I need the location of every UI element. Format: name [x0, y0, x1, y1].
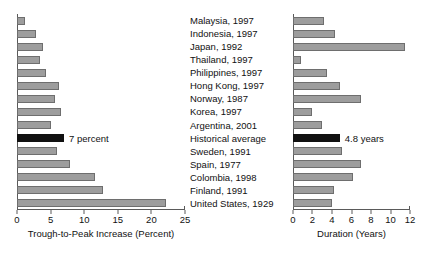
- category-label-1: Indonesia, 1997: [190, 29, 285, 39]
- bar-row: [17, 29, 185, 39]
- bar-row: [17, 159, 185, 169]
- bar-row: [293, 107, 410, 117]
- bar-left-2: [17, 43, 43, 51]
- x-tick-label: 2: [310, 214, 315, 225]
- bar-row: [17, 81, 185, 91]
- x-tick-label: 4: [329, 214, 334, 225]
- bar-row: [293, 146, 410, 156]
- category-label-7: Korea, 1997: [190, 107, 285, 117]
- x-tick-label: 15: [113, 214, 124, 225]
- category-label-14: United States, 1929: [190, 198, 285, 208]
- x-tick-label: 6: [349, 214, 354, 225]
- bar-left-5: [17, 82, 59, 90]
- panel-trough-to-peak: 7 percent 0510152025 Trough-to-Peak Incr…: [0, 0, 190, 253]
- bar-row: [17, 94, 185, 104]
- category-label-12: Colombia, 1998: [190, 172, 285, 182]
- x-tick-label: 8: [368, 214, 373, 225]
- category-label-0: Malaysia, 1997: [190, 16, 285, 26]
- bar-annotation-left: 7 percent: [64, 133, 109, 144]
- bar-row: 7 percent: [17, 133, 185, 143]
- bar-left-11: [17, 160, 70, 168]
- bar-row: [293, 159, 410, 169]
- bar-row: 4.8 years: [293, 133, 410, 143]
- x-axis-title-left: Trough-to-Peak Increase (Percent): [17, 228, 185, 239]
- bar-right-3: [293, 56, 301, 64]
- x-tick-label: 0: [14, 214, 19, 225]
- bar-row: [293, 29, 410, 39]
- bar-row: [293, 81, 410, 91]
- bar-left-6: [17, 95, 55, 103]
- bar-row: [293, 55, 410, 65]
- bar-group-right: 4.8 years: [293, 14, 410, 210]
- bar-right-8: [293, 121, 322, 129]
- bar-right-12: [293, 173, 353, 181]
- x-tick-label: 20: [146, 214, 157, 225]
- bar-row: [293, 94, 410, 104]
- bar-right-10: [293, 147, 342, 155]
- bar-row: [17, 55, 185, 65]
- category-label-13: Finland, 1991: [190, 185, 285, 195]
- bar-left-8: [17, 121, 51, 129]
- bar-left-12: [17, 173, 95, 181]
- bar-left-14: [17, 199, 166, 207]
- bar-row: [293, 16, 410, 26]
- bar-row: [293, 120, 410, 130]
- category-label-9: Historical average: [190, 133, 285, 143]
- bar-right-1: [293, 30, 335, 38]
- bar-right-14: [293, 199, 332, 207]
- category-label-10: Sweden, 1991: [190, 146, 285, 156]
- bar-right-7: [293, 108, 312, 116]
- bar-row: [17, 68, 185, 78]
- x-axis-title-right: Duration (Years): [293, 228, 410, 239]
- bar-left-7: [17, 108, 61, 116]
- bar-row: [293, 42, 410, 52]
- bar-left-13: [17, 186, 103, 194]
- bar-left-0: [17, 17, 25, 25]
- bar-group-left: 7 percent: [17, 14, 185, 210]
- bar-row: [293, 172, 410, 182]
- x-tick-label: 10: [79, 214, 90, 225]
- category-label-4: Philippines, 1997: [190, 68, 285, 78]
- bar-row: [17, 146, 185, 156]
- bar-right-0: [293, 17, 324, 25]
- bar-highlight-left: [17, 134, 64, 142]
- bar-right-5: [293, 82, 340, 90]
- x-tick-label: 5: [48, 214, 53, 225]
- bar-left-10: [17, 147, 57, 155]
- bar-right-11: [293, 160, 361, 168]
- bar-row: [293, 198, 410, 208]
- bar-row: [17, 16, 185, 26]
- figure-two-panel-bar-chart: 7 percent 0510152025 Trough-to-Peak Incr…: [0, 0, 426, 253]
- bar-row: [17, 198, 185, 208]
- bar-left-1: [17, 30, 36, 38]
- panel-duration: 4.8 years 024681012 Duration (Years): [285, 0, 426, 253]
- x-tick-label: 25: [180, 214, 191, 225]
- bar-right-13: [293, 186, 334, 194]
- category-label-6: Norway, 1987: [190, 94, 285, 104]
- bar-left-3: [17, 56, 40, 64]
- bar-right-2: [293, 43, 405, 51]
- panel-category-labels: Malaysia, 1997Indonesia, 1997Japan, 1992…: [190, 0, 285, 253]
- plot-area-right: 4.8 years 024681012 Duration (Years): [293, 14, 410, 210]
- category-label-list: Malaysia, 1997Indonesia, 1997Japan, 1992…: [190, 14, 285, 210]
- x-tick-label: 12: [405, 214, 416, 225]
- bar-row: [293, 68, 410, 78]
- category-label-3: Thailand, 1997: [190, 55, 285, 65]
- bar-annotation-right: 4.8 years: [340, 133, 384, 144]
- bar-row: [17, 185, 185, 195]
- bar-right-6: [293, 95, 361, 103]
- bar-row: [17, 107, 185, 117]
- category-label-2: Japan, 1992: [190, 42, 285, 52]
- category-label-8: Argentina, 2001: [190, 120, 285, 130]
- x-tick-label: 0: [290, 214, 295, 225]
- category-label-5: Hong Kong, 1997: [190, 81, 285, 91]
- bar-row: [17, 42, 185, 52]
- bar-right-4: [293, 69, 327, 77]
- category-label-11: Spain, 1977: [190, 159, 285, 169]
- bar-highlight-right: [293, 134, 340, 142]
- plot-area-left: 7 percent 0510152025 Trough-to-Peak Incr…: [17, 14, 185, 210]
- bar-row: [17, 172, 185, 182]
- bar-left-4: [17, 69, 46, 77]
- bar-row: [293, 185, 410, 195]
- bar-row: [17, 120, 185, 130]
